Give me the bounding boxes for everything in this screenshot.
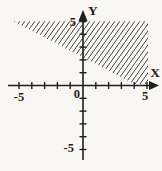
x-axis-arrowhead	[149, 81, 159, 90]
x-axis-label: X	[150, 65, 160, 80]
plot-layer	[8, 10, 159, 160]
y-tick-label-neg5: -5	[64, 141, 74, 155]
origin-label: 0	[74, 87, 80, 101]
y-axis-label: Y	[88, 3, 98, 18]
y-axis-arrowhead	[79, 10, 88, 21]
scanned-graph-figure: Y X 5 -5 -5 0 5	[0, 0, 162, 171]
x-tick-label-5: 5	[142, 89, 148, 103]
coordinate-plane-canvas: Y X 5 -5 -5 0 5	[0, 0, 162, 171]
y-tick-label-5: 5	[70, 15, 76, 29]
shaded-region	[13, 21, 148, 84]
x-tick-label-neg5: -5	[14, 90, 24, 104]
